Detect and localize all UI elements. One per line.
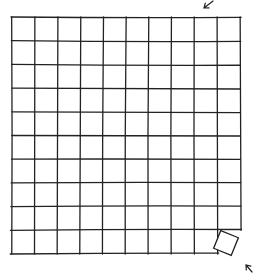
grid-line bbox=[11, 206, 241, 207]
grid-line bbox=[10, 229, 241, 230]
grid-line bbox=[217, 17, 218, 254]
grid-line bbox=[171, 17, 172, 254]
grid-line bbox=[57, 17, 58, 254]
grid-sketch bbox=[0, 0, 253, 273]
grid-line bbox=[12, 136, 240, 137]
grid-line bbox=[10, 253, 219, 254]
grid-line bbox=[80, 17, 81, 254]
bottom-right-arrow-icon bbox=[246, 265, 252, 272]
grid-line bbox=[240, 17, 241, 230]
grid-lines bbox=[10, 17, 241, 254]
grid-line bbox=[11, 182, 241, 183]
top-right-arrow-icon bbox=[204, 1, 213, 8]
